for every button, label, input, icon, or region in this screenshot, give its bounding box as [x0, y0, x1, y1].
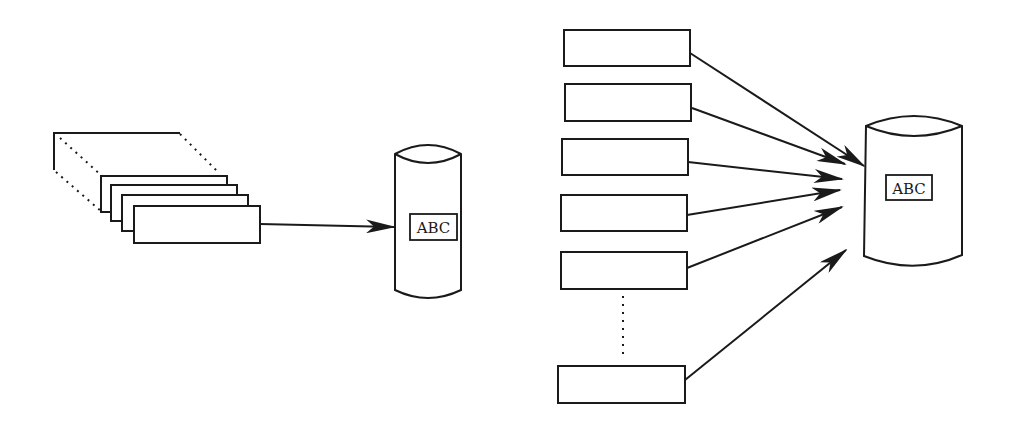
source-box-3: [562, 139, 688, 175]
diagram-canvas: ABC ABC: [0, 0, 1011, 425]
source-box-n: [558, 366, 685, 403]
source-box-2: [565, 84, 691, 121]
database-label-left: ABC: [416, 219, 451, 237]
source-box-4: [561, 195, 687, 231]
source-box-5: [561, 252, 687, 289]
converging-arrows: [685, 53, 864, 380]
database-label-right: ABC: [891, 180, 926, 198]
record-stack: [54, 133, 260, 243]
source-box-1: [564, 30, 690, 66]
arrow-stack-to-db: [260, 224, 394, 227]
source-boxes: [558, 30, 691, 403]
